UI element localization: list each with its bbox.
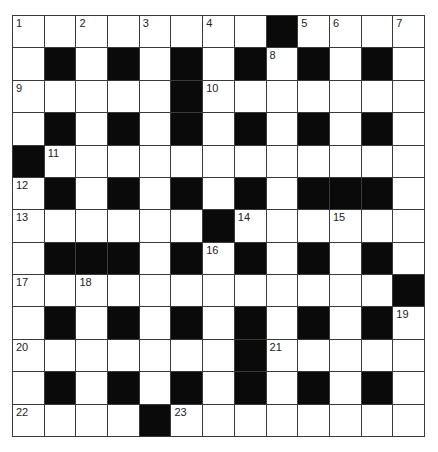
answer-cell[interactable] (267, 113, 298, 144)
answer-cell[interactable] (393, 146, 424, 177)
answer-cell[interactable] (76, 113, 107, 144)
answer-cell[interactable] (203, 372, 234, 403)
answer-cell[interactable]: 13 (13, 210, 44, 241)
answer-cell[interactable]: 10 (203, 81, 234, 112)
answer-cell[interactable] (140, 178, 171, 209)
answer-cell[interactable] (45, 16, 76, 47)
answer-cell[interactable]: 3 (140, 16, 171, 47)
answer-cell[interactable] (45, 275, 76, 306)
answer-cell[interactable] (140, 81, 171, 112)
answer-cell[interactable]: 20 (13, 340, 44, 371)
answer-cell[interactable] (171, 146, 202, 177)
answer-cell[interactable] (108, 275, 139, 306)
answer-cell[interactable] (235, 275, 266, 306)
answer-cell[interactable] (362, 405, 393, 436)
answer-cell[interactable] (76, 210, 107, 241)
answer-cell[interactable] (393, 210, 424, 241)
answer-cell[interactable]: 6 (330, 16, 361, 47)
answer-cell[interactable] (393, 372, 424, 403)
answer-cell[interactable] (267, 81, 298, 112)
answer-cell[interactable] (203, 146, 234, 177)
answer-cell[interactable] (267, 146, 298, 177)
answer-cell[interactable] (298, 81, 329, 112)
answer-cell[interactable] (267, 178, 298, 209)
answer-cell[interactable] (393, 48, 424, 79)
answer-cell[interactable] (140, 372, 171, 403)
answer-cell[interactable] (393, 81, 424, 112)
answer-cell[interactable] (393, 178, 424, 209)
answer-cell[interactable] (330, 372, 361, 403)
answer-cell[interactable] (393, 243, 424, 274)
answer-cell[interactable] (298, 210, 329, 241)
answer-cell[interactable] (330, 307, 361, 338)
answer-cell[interactable] (267, 275, 298, 306)
answer-cell[interactable] (108, 16, 139, 47)
answer-cell[interactable] (13, 113, 44, 144)
answer-cell[interactable] (267, 243, 298, 274)
answer-cell[interactable] (76, 307, 107, 338)
answer-cell[interactable] (203, 275, 234, 306)
answer-cell[interactable] (140, 146, 171, 177)
answer-cell[interactable] (298, 146, 329, 177)
answer-cell[interactable] (171, 210, 202, 241)
answer-cell[interactable]: 5 (298, 16, 329, 47)
answer-cell[interactable] (298, 275, 329, 306)
answer-cell[interactable] (108, 81, 139, 112)
answer-cell[interactable]: 18 (76, 275, 107, 306)
answer-cell[interactable]: 9 (13, 81, 44, 112)
answer-cell[interactable]: 17 (13, 275, 44, 306)
answer-cell[interactable] (298, 340, 329, 371)
answer-cell[interactable] (108, 146, 139, 177)
answer-cell[interactable] (76, 178, 107, 209)
answer-cell[interactable] (203, 340, 234, 371)
answer-cell[interactable] (140, 307, 171, 338)
answer-cell[interactable] (362, 146, 393, 177)
answer-cell[interactable] (140, 210, 171, 241)
answer-cell[interactable] (76, 340, 107, 371)
answer-cell[interactable] (330, 113, 361, 144)
answer-cell[interactable]: 7 (393, 16, 424, 47)
answer-cell[interactable] (362, 81, 393, 112)
answer-cell[interactable] (171, 340, 202, 371)
answer-cell[interactable] (45, 405, 76, 436)
answer-cell[interactable]: 19 (393, 307, 424, 338)
answer-cell[interactable] (267, 307, 298, 338)
answer-cell[interactable] (330, 243, 361, 274)
answer-cell[interactable] (13, 372, 44, 403)
answer-cell[interactable] (203, 113, 234, 144)
answer-cell[interactable] (76, 372, 107, 403)
answer-cell[interactable] (330, 340, 361, 371)
answer-cell[interactable] (171, 275, 202, 306)
answer-cell[interactable] (140, 340, 171, 371)
answer-cell[interactable] (330, 48, 361, 79)
answer-cell[interactable] (393, 113, 424, 144)
answer-cell[interactable] (140, 113, 171, 144)
answer-cell[interactable] (267, 372, 298, 403)
answer-cell[interactable] (13, 48, 44, 79)
answer-cell[interactable] (45, 340, 76, 371)
answer-cell[interactable] (298, 405, 329, 436)
answer-cell[interactable]: 22 (13, 405, 44, 436)
answer-cell[interactable] (393, 340, 424, 371)
answer-cell[interactable] (13, 243, 44, 274)
answer-cell[interactable] (108, 210, 139, 241)
answer-cell[interactable] (171, 16, 202, 47)
answer-cell[interactable] (76, 405, 107, 436)
answer-cell[interactable] (203, 405, 234, 436)
answer-cell[interactable] (330, 81, 361, 112)
answer-cell[interactable] (76, 48, 107, 79)
answer-cell[interactable] (108, 405, 139, 436)
answer-cell[interactable] (203, 48, 234, 79)
answer-cell[interactable] (140, 48, 171, 79)
answer-cell[interactable] (235, 81, 266, 112)
answer-cell[interactable] (13, 307, 44, 338)
answer-cell[interactable] (330, 405, 361, 436)
answer-cell[interactable]: 14 (235, 210, 266, 241)
answer-cell[interactable] (108, 340, 139, 371)
answer-cell[interactable] (362, 340, 393, 371)
answer-cell[interactable] (203, 307, 234, 338)
answer-cell[interactable] (235, 405, 266, 436)
answer-cell[interactable]: 15 (330, 210, 361, 241)
answer-cell[interactable] (235, 146, 266, 177)
answer-cell[interactable] (203, 178, 234, 209)
